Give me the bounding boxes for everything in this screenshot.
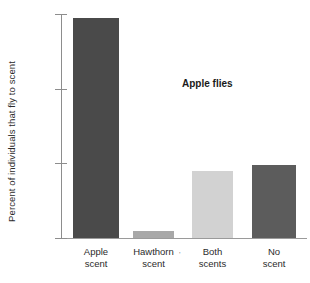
bar <box>192 171 233 238</box>
stray-tick-mark: ' <box>179 250 181 259</box>
x-axis-tick-label-line: scent <box>238 258 310 270</box>
bar-chart-figure: Percent of individuals that fly to scent… <box>0 0 310 283</box>
chart-title: Apple flies <box>182 78 233 89</box>
x-axis-tick-label: Noscent <box>238 246 310 270</box>
bar <box>133 231 174 238</box>
x-axis-tick-label: Bothscents <box>178 246 247 270</box>
y-axis-tick <box>55 89 67 90</box>
plot-area: 0204060 ApplescentHawthornscentBothscent… <box>61 14 309 238</box>
x-axis-tick-label-line: scents <box>178 258 247 270</box>
y-axis-tick <box>55 163 67 164</box>
x-axis-tick-label-line: No <box>238 246 310 258</box>
bar <box>252 165 296 238</box>
x-axis-line <box>61 238 307 239</box>
y-axis-tick <box>55 238 67 239</box>
x-axis-tick-label-line: Both <box>178 246 247 258</box>
bar <box>73 18 119 238</box>
y-axis-label: Percent of individuals that fly to scent <box>0 0 22 283</box>
y-axis-line <box>61 14 62 238</box>
y-axis-tick <box>55 14 67 15</box>
